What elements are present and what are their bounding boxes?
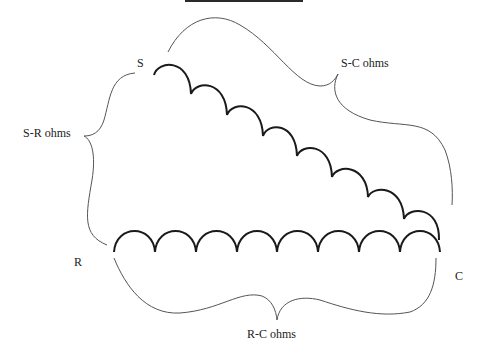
r-c-brace: [114, 258, 436, 320]
s-c-ohms-label: S-C ohms: [341, 57, 389, 69]
s-r-ohms-label: S-R ohms: [23, 127, 71, 139]
s-c-brace: [168, 18, 452, 205]
r-c-ohms-label: R-C ohms: [247, 328, 296, 340]
run-winding-coil: [114, 231, 440, 252]
start-winding-coil: [154, 65, 439, 240]
terminal-r-label: R: [74, 256, 82, 268]
winding-diagram: [0, 0, 482, 359]
terminal-s-label: S: [137, 57, 144, 69]
s-r-brace: [84, 73, 135, 245]
terminal-c-label: C: [455, 270, 463, 282]
